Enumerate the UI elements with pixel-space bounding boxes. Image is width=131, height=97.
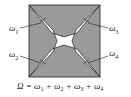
- label-omega-3: ω3: [109, 23, 118, 35]
- label-omega-4: ω4: [109, 48, 118, 60]
- formula: Ω = ω1 + ω2 + ω3 + ω4: [17, 81, 103, 92]
- diagram: ω1 ω2 ω3 ω4 Ω = ω1 + ω2 + ω3 + ω4: [0, 0, 131, 97]
- label-omega-2: ω2: [9, 49, 18, 61]
- label-omega-1: ω1: [9, 23, 18, 35]
